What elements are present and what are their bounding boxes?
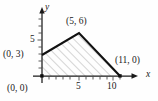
point-label-apex: (5, 6): [66, 17, 87, 27]
point-label-origin: (0, 0): [7, 84, 28, 94]
x-tick-label-5: 5: [76, 82, 81, 92]
y-tick-label-5: 5: [30, 35, 35, 45]
graph-figure: (5, 6) (0, 3) (0, 0) (11, 0) 5 10 5 y x: [0, 0, 158, 101]
point-label-x-intercept: (11, 0): [115, 56, 140, 66]
y-axis-label: y: [45, 3, 49, 13]
shaded-region: [42, 33, 120, 76]
x-axis-label: x: [146, 70, 150, 80]
x-tick-label-10: 10: [107, 82, 117, 92]
point-label-y-intercept: (0, 3): [3, 50, 24, 60]
